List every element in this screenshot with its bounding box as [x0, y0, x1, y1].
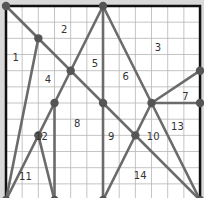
piece-label-3: 3 [155, 42, 161, 53]
piece-label-12: 12 [35, 131, 48, 142]
vertex-node [147, 99, 155, 107]
vertex-node [131, 131, 139, 139]
diagram-canvas: 1234567891011121314 [0, 0, 204, 198]
piece-label-13: 13 [171, 121, 184, 132]
piece-label-10: 10 [147, 131, 160, 142]
stomachion-diagram: 1234567891011121314 [0, 0, 204, 198]
piece-label-11: 11 [19, 171, 32, 182]
piece-label-8: 8 [74, 118, 80, 129]
piece-label-4: 4 [45, 74, 51, 85]
piece-label-6: 6 [122, 71, 128, 82]
piece-label-9: 9 [108, 131, 114, 142]
piece-label-14: 14 [134, 170, 147, 181]
vertex-node [99, 99, 107, 107]
piece-label-1: 1 [13, 52, 19, 63]
vertex-node [50, 99, 58, 107]
vertex-node [196, 99, 204, 107]
vertex-node [34, 34, 42, 42]
piece-label-5: 5 [92, 58, 98, 69]
vertex-node [66, 66, 74, 74]
vertex-node [196, 66, 204, 74]
vertex-node [2, 2, 10, 10]
vertex-node [99, 2, 107, 10]
piece-label-7: 7 [182, 91, 188, 102]
piece-label-2: 2 [61, 24, 67, 35]
